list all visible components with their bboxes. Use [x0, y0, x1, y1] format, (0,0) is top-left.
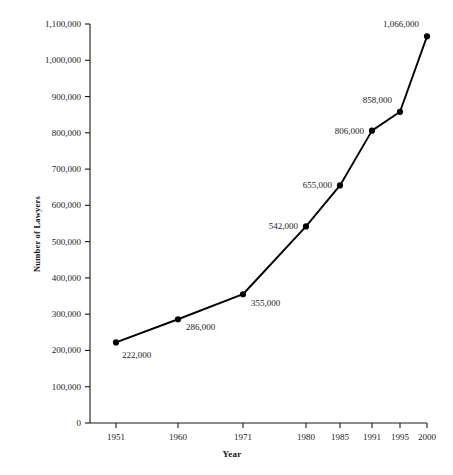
data-point-marker [303, 223, 309, 229]
lawyers-line-chart: 0100,000200,000300,000400,000500,000600,… [0, 0, 453, 475]
x-tick-label: 1951 [107, 432, 125, 442]
x-tick-label: 2000 [418, 432, 436, 442]
y-tick-label: 0 [0, 418, 81, 428]
data-point-value-label: 222,000 [122, 350, 151, 360]
x-tick-label: 1991 [363, 432, 381, 442]
y-tick-label: 400,000 [0, 273, 81, 283]
data-point-value-label: 806,000 [335, 126, 364, 136]
y-tick-label: 300,000 [0, 309, 81, 319]
data-point-marker [424, 33, 430, 39]
data-point-value-label: 355,000 [251, 298, 280, 308]
x-tick-label: 1960 [169, 432, 187, 442]
x-tick-label: 1985 [331, 432, 349, 442]
data-point-marker [397, 109, 403, 115]
data-point-marker [113, 339, 119, 345]
data-point-marker [175, 316, 181, 322]
y-tick-label: 200,000 [0, 345, 81, 355]
x-tick-label: 1995 [391, 432, 409, 442]
y-tick-label: 1,000,000 [0, 55, 81, 65]
x-tick-label: 1971 [234, 432, 252, 442]
axes [90, 24, 427, 423]
data-point-marker [369, 128, 375, 134]
x-axis-title: Year [222, 449, 241, 459]
data-point-marker [240, 291, 246, 297]
lawyers-trend-line [116, 36, 427, 342]
y-tick-label: 100,000 [0, 382, 81, 392]
data-point-value-label: 655,000 [303, 180, 332, 190]
y-axis-title: Number of Lawyers [32, 196, 42, 272]
data-point-value-label: 858,000 [363, 95, 392, 105]
y-tick-label: 1,100,000 [0, 19, 81, 29]
data-point-marker [337, 182, 343, 188]
y-tick-label: 800,000 [0, 128, 81, 138]
y-tick-label: 700,000 [0, 164, 81, 174]
data-point-value-label: 286,000 [186, 322, 215, 332]
data-point-value-label: 542,000 [269, 221, 298, 231]
data-point-value-label: 1,066,000 [383, 19, 419, 29]
axis-ticks [85, 24, 427, 428]
x-tick-label: 1980 [297, 432, 315, 442]
y-tick-label: 900,000 [0, 92, 81, 102]
